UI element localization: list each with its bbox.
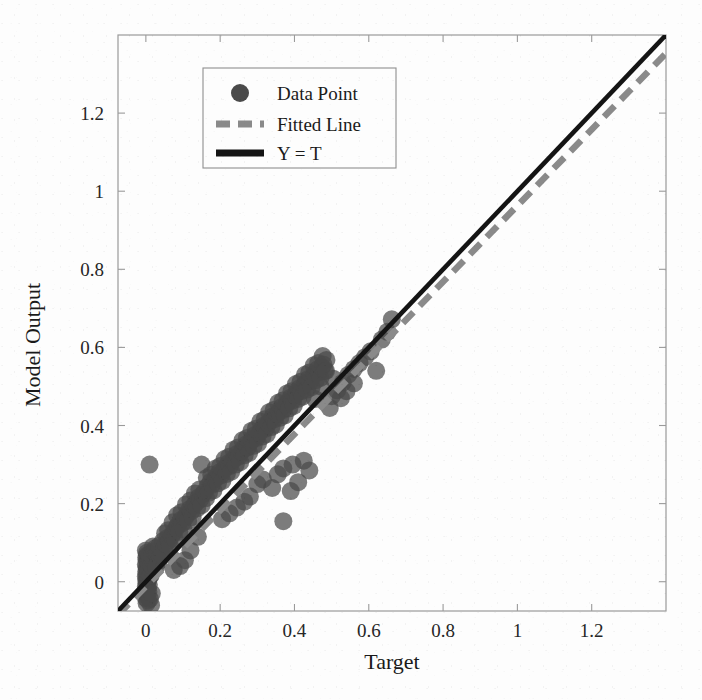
legend-label-identity-line: Y = T (277, 143, 322, 164)
data-point (141, 456, 159, 474)
y-tick-label: 0 (95, 572, 105, 593)
data-point (274, 512, 292, 530)
x-tick-label: 0 (141, 620, 151, 641)
legend: Data Point Fitted Line Y = T (203, 68, 396, 168)
data-point (300, 461, 318, 479)
x-axis-title: Target (364, 649, 419, 674)
data-point (314, 347, 332, 365)
y-tick-label: 0.4 (80, 416, 104, 437)
x-tick-label: 1.2 (580, 620, 604, 641)
x-tick-label: 0.4 (283, 620, 307, 641)
data-point (143, 584, 161, 602)
data-point (282, 482, 300, 500)
data-point-marker-icon (231, 84, 249, 102)
x-tick-label: 0.6 (357, 620, 381, 641)
x-tick-label: 0.8 (431, 620, 455, 641)
data-point (165, 561, 183, 579)
plot-canvas: 00.20.40.60.811.2 00.20.40.60.811.2 Targ… (0, 0, 702, 700)
y-tick-label: 1.2 (80, 103, 104, 124)
data-point (367, 362, 385, 380)
scatter-plot-figure: 00.20.40.60.811.2 00.20.40.60.811.2 Targ… (0, 0, 702, 700)
x-tick-label: 1 (513, 620, 523, 641)
y-tick-label: 0.8 (80, 259, 104, 280)
y-axis-title: Model Output (20, 283, 45, 407)
y-tick-label: 1 (95, 181, 105, 202)
y-tick-label: 0.6 (80, 337, 104, 358)
y-tick-label: 0.2 (80, 494, 104, 515)
legend-label-fitted-line: Fitted Line (277, 114, 361, 135)
x-tick-label: 0.2 (208, 620, 232, 641)
legend-label-data-point: Data Point (277, 83, 358, 104)
